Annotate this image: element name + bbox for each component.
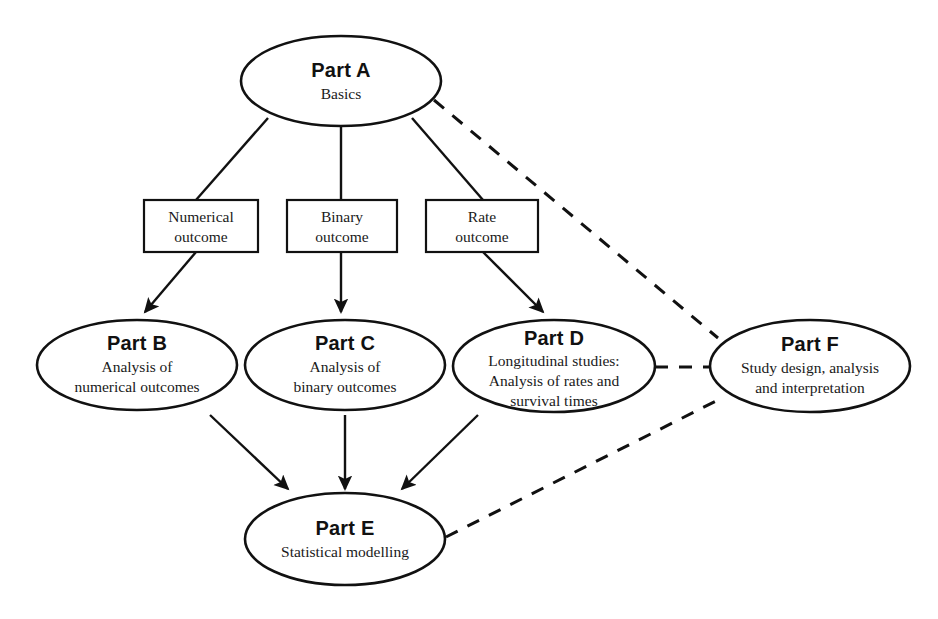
node-part-e-subtitle-1: Statistical modelling bbox=[281, 543, 409, 560]
node-part-a-title: Part A bbox=[311, 59, 370, 81]
box-binary-outcome-line-2: outcome bbox=[315, 228, 368, 245]
node-part-d-subtitle-2: Analysis of rates and bbox=[489, 372, 620, 389]
diagram-canvas: Numerical outcome Binary outcome Rate ou… bbox=[0, 0, 938, 619]
node-part-c[interactable]: Part C Analysis of binary outcomes bbox=[245, 320, 445, 410]
node-part-a-shape bbox=[241, 36, 441, 126]
node-part-c-subtitle-2: binary outcomes bbox=[294, 378, 397, 395]
node-part-e-shape bbox=[245, 493, 445, 585]
box-rate-outcome-line-2: outcome bbox=[455, 228, 508, 245]
node-part-b-subtitle-1: Analysis of bbox=[101, 358, 173, 375]
flow-diagram: Numerical outcome Binary outcome Rate ou… bbox=[0, 0, 938, 619]
edge-b-to-e bbox=[210, 415, 288, 489]
box-binary-outcome[interactable]: Binary outcome bbox=[287, 200, 397, 252]
edge-a-to-numerical bbox=[196, 118, 268, 200]
node-part-f-title: Part F bbox=[781, 333, 839, 355]
node-part-d-subtitle-3: survival times bbox=[510, 392, 597, 409]
box-numerical-outcome[interactable]: Numerical outcome bbox=[144, 200, 258, 252]
node-part-d-subtitle-1: Longitudinal studies: bbox=[488, 352, 619, 369]
box-rate-outcome-line-1: Rate bbox=[468, 208, 497, 225]
node-part-a[interactable]: Part A Basics bbox=[241, 36, 441, 126]
edge-e-to-f bbox=[446, 398, 722, 537]
box-rate-outcome[interactable]: Rate outcome bbox=[426, 200, 538, 252]
node-part-c-title: Part C bbox=[315, 332, 375, 354]
edge-rate-to-d bbox=[483, 252, 543, 312]
box-binary-outcome-line-1: Binary bbox=[321, 208, 363, 225]
edge-numerical-to-b bbox=[145, 252, 196, 312]
node-part-a-subtitle-1: Basics bbox=[321, 85, 361, 102]
edge-d-to-e bbox=[402, 415, 478, 489]
node-part-f-subtitle-2: and interpretation bbox=[755, 379, 865, 396]
box-numerical-outcome-line-2: outcome bbox=[174, 228, 227, 245]
node-part-c-subtitle-1: Analysis of bbox=[309, 358, 381, 375]
node-part-b-title: Part B bbox=[107, 332, 167, 354]
node-part-d-title: Part D bbox=[524, 327, 584, 349]
node-part-b[interactable]: Part B Analysis of numerical outcomes bbox=[37, 320, 237, 410]
node-part-d[interactable]: Part D Longitudinal studies: Analysis of… bbox=[453, 320, 655, 412]
node-part-f[interactable]: Part F Study design, analysis and interp… bbox=[710, 320, 910, 412]
node-part-e[interactable]: Part E Statistical modelling bbox=[245, 493, 445, 585]
node-part-f-subtitle-1: Study design, analysis bbox=[741, 359, 879, 376]
node-part-b-subtitle-2: numerical outcomes bbox=[74, 378, 199, 395]
box-numerical-outcome-line-1: Numerical bbox=[168, 208, 233, 225]
node-part-e-title: Part E bbox=[315, 517, 374, 539]
